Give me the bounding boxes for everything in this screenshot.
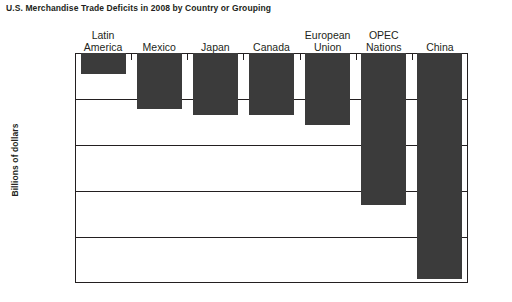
bar[interactable] [305, 53, 350, 125]
x-axis-category-label: EuropeanUnion [300, 30, 356, 53]
x-axis-tick-mark [187, 53, 188, 60]
x-axis-category-label: Canada [243, 42, 299, 54]
x-axis-category-labels: LatinAmericaMexicoJapanCanadaEuropeanUni… [75, 26, 468, 53]
bar[interactable] [361, 53, 406, 205]
bar[interactable] [137, 53, 182, 109]
x-axis-category-label: Japan [187, 42, 243, 54]
bar[interactable] [249, 53, 294, 115]
category-label-line2: Union [300, 42, 356, 54]
x-axis-tick-mark [131, 53, 132, 60]
bars-layer [75, 53, 468, 283]
x-axis-tick-mark [300, 53, 301, 60]
x-axis-category-label: LatinAmerica [75, 30, 131, 53]
category-label-line1: Mexico [131, 42, 187, 54]
category-label-line1: European [300, 30, 356, 42]
y-axis-title: Billions of dollars [10, 90, 20, 230]
category-label-line2: Nations [356, 42, 412, 54]
bar[interactable] [193, 53, 238, 115]
x-axis-category-label: OPECNations [356, 30, 412, 53]
plot-area: 0-50-100-150-200-250 [75, 53, 468, 283]
category-label-line2: America [75, 42, 131, 54]
x-axis-category-label: Mexico [131, 42, 187, 54]
x-axis-category-label: China [412, 42, 468, 54]
category-label-line1: Canada [243, 42, 299, 54]
category-label-line1: Japan [187, 42, 243, 54]
category-label-line1: China [412, 42, 468, 54]
page-title: U.S. Merchandise Trade Deficits in 2008 … [6, 3, 271, 13]
x-axis-tick-mark [243, 53, 244, 60]
bar[interactable] [81, 53, 126, 74]
bar[interactable] [417, 53, 462, 279]
x-axis-tick-mark [356, 53, 357, 60]
category-label-line1: Latin [75, 30, 131, 42]
category-label-line1: OPEC [356, 30, 412, 42]
x-axis-tick-mark [412, 53, 413, 60]
